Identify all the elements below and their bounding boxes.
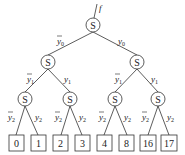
svg-text:y2: y2 [166,112,174,123]
label-y0bar: y0 [56,36,64,47]
svg-text:S: S [67,94,73,105]
svg-text:S: S [22,94,28,105]
label-leaf2-y2bar: y2 [54,112,62,123]
label-leaf7-y2: y2 [166,112,174,123]
label-leaf4-y2bar: y2 [98,112,106,123]
svg-text:y2: y2 [141,112,149,123]
node-l2-d: S [151,92,165,106]
label-leaf0-y2bar: y2 [7,112,15,123]
leaf-2: 2 [53,135,68,151]
label-l1-right-y1bar: y1 [114,74,122,85]
label-leaf1-y2: y2 [34,112,42,123]
node-l2-b: S [63,92,77,106]
svg-text:y2: y2 [54,112,62,123]
svg-text:S: S [112,94,118,105]
svg-text:y1: y1 [63,74,71,85]
svg-text:8: 8 [124,138,129,149]
svg-text:2: 2 [58,138,63,149]
edge-leaf2 [61,106,70,135]
svg-text:17: 17 [164,138,174,149]
leaf-7: 17 [161,135,177,151]
svg-text:y1: y1 [150,74,158,85]
label-leaf6-y2bar: y2 [141,112,149,123]
node-l2-c: S [108,92,122,106]
svg-text:y1: y1 [26,74,34,85]
svg-text:y2: y2 [34,112,42,123]
leaf-4: 4 [97,135,112,151]
node-l1-left: S [41,55,55,69]
root-label: f [99,3,103,13]
svg-text:0: 0 [14,138,19,149]
svg-text:3: 3 [80,138,85,149]
svg-text:y2: y2 [7,112,15,123]
svg-text:S: S [45,57,51,68]
svg-text:y0: y0 [56,36,64,47]
leaf-0: 0 [9,135,24,151]
node-l2-a: S [18,92,32,106]
edge-leaf0 [16,106,25,135]
leaf-6: 16 [140,135,156,151]
svg-text:S: S [155,94,161,105]
svg-text:y2: y2 [78,112,86,123]
svg-text:16: 16 [143,138,153,149]
label-l1-right-y1: y1 [150,74,158,85]
decision-tree-diagram: f y0 y0 y1 y1 y1 y1 y2 y2 y2 [0,0,185,155]
svg-text:y0: y0 [117,36,125,47]
svg-text:y2: y2 [123,112,131,123]
leaf-1: 1 [31,135,46,151]
svg-text:S: S [90,20,96,31]
edge-y0bar [48,32,93,55]
svg-text:y2: y2 [98,112,106,123]
leaf-3: 3 [75,135,90,151]
edge-leaf6 [148,106,158,135]
label-l1-left-y1: y1 [63,74,71,85]
svg-text:S: S [134,57,140,68]
svg-text:4: 4 [102,138,107,149]
label-leaf3-y2: y2 [78,112,86,123]
node-root: S [86,18,100,32]
leaf-5: 8 [119,135,134,151]
svg-text:y1: y1 [114,74,122,85]
root-input-line [94,4,97,18]
label-leaf5-y2: y2 [123,112,131,123]
label-y0: y0 [117,36,125,47]
svg-text:1: 1 [36,138,41,149]
node-l1-right: S [130,55,144,69]
label-l1-left-y1bar: y1 [26,74,34,85]
edge-y0 [93,32,137,55]
